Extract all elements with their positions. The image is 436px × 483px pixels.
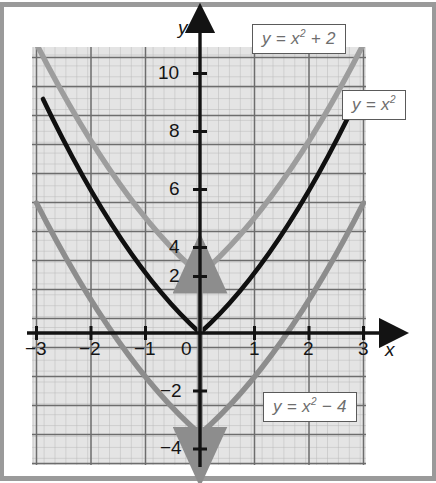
plot-area: 10 8 6 4 2 −2 −4 −3 −2 −1 1 2 3 0 y x y … <box>0 0 436 483</box>
origin-label: 0 <box>181 339 192 358</box>
callout-y-equals-x-squared-minus-4: y = x2 − 4 <box>263 392 357 422</box>
x-axis-label: x <box>385 340 395 359</box>
callout-y-equals-x-squared: y = x2 <box>342 90 406 120</box>
callout-minus4-lhs: y = x <box>273 397 311 416</box>
callout-plus2-lhs: y = x <box>262 29 300 48</box>
x-tick-label-3: 3 <box>358 339 369 358</box>
callout-plus2-rhs: + 2 <box>306 29 336 48</box>
x-tick-label-neg2: −2 <box>79 339 101 358</box>
y-tick-label-neg4: −4 <box>160 438 182 457</box>
coordinate-plane-svg <box>0 0 436 483</box>
x-tick-label-2: 2 <box>303 339 314 358</box>
y-tick-label-2: 2 <box>169 266 180 285</box>
callout-y-equals-x-squared-plus-2: y = x2 + 2 <box>252 24 346 54</box>
y-tick-label-neg2: −2 <box>160 381 182 400</box>
y-tick-label-8: 8 <box>169 121 180 140</box>
callout-minus4-rhs: − 4 <box>317 397 347 416</box>
x-tick-label-1: 1 <box>249 339 260 358</box>
x-tick-label-neg3: −3 <box>25 339 47 358</box>
x-tick-label-neg1: −1 <box>134 339 156 358</box>
y-tick-label-6: 6 <box>169 179 180 198</box>
y-axis-label: y <box>178 18 188 37</box>
graph-figure: 10 8 6 4 2 −2 −4 −3 −2 −1 1 2 3 0 y x y … <box>0 0 436 483</box>
y-tick-label-10: 10 <box>158 63 179 82</box>
callout-base-exponent: 2 <box>390 94 396 105</box>
y-tick-label-4: 4 <box>169 237 180 256</box>
callout-base-lhs: y = x <box>352 95 390 114</box>
